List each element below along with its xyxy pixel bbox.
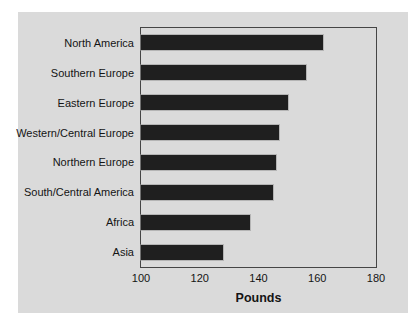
x-tick-label: 160 (308, 272, 326, 284)
category-label-text: Northern Europe (53, 156, 134, 168)
category-label: Western/Central Europe (21, 118, 141, 148)
category-label-text: Eastern Europe (58, 97, 134, 109)
bar (141, 215, 250, 230)
category-label: Asia (21, 237, 141, 267)
chart-page: North AmericaSouthern EuropeEastern Euro… (0, 0, 420, 332)
bar-slot (141, 58, 376, 88)
x-tick-label: 180 (367, 272, 385, 284)
bar (141, 155, 276, 170)
category-label: North America (21, 28, 141, 58)
chart-panel: North AmericaSouthern EuropeEastern Euro… (18, 12, 408, 313)
bar (141, 65, 306, 80)
category-label: Africa (21, 207, 141, 237)
bar (141, 35, 323, 50)
category-label-text: North America (64, 37, 134, 49)
bar (141, 185, 273, 200)
category-label: Eastern Europe (21, 88, 141, 118)
bars-container (141, 28, 376, 267)
x-tick-label: 140 (249, 272, 267, 284)
category-label-text: Southern Europe (51, 67, 134, 79)
x-axis-title: Pounds (141, 291, 376, 305)
x-axis-tick-labels: 100120140160180 (141, 272, 376, 286)
category-label: Southern Europe (21, 58, 141, 88)
bar-slot (141, 177, 376, 207)
bar-slot (141, 148, 376, 178)
plot-area: North AmericaSouthern EuropeEastern Euro… (140, 27, 377, 268)
category-label-text: Africa (106, 216, 134, 228)
category-label: Northern Europe (21, 148, 141, 178)
bar (141, 125, 279, 140)
x-tick-label: 100 (132, 272, 150, 284)
category-label-text: Asia (113, 246, 134, 258)
x-tick-label: 120 (191, 272, 209, 284)
bar-slot (141, 237, 376, 267)
bar-slot (141, 28, 376, 58)
bar-slot (141, 118, 376, 148)
category-label: South/Central America (21, 177, 141, 207)
category-label-text: Western/Central Europe (16, 127, 134, 139)
y-axis-labels: North AmericaSouthern EuropeEastern Euro… (21, 28, 141, 267)
bar (141, 245, 223, 260)
bar-slot (141, 88, 376, 118)
bar-slot (141, 207, 376, 237)
category-label-text: South/Central America (24, 186, 134, 198)
bar (141, 95, 288, 110)
